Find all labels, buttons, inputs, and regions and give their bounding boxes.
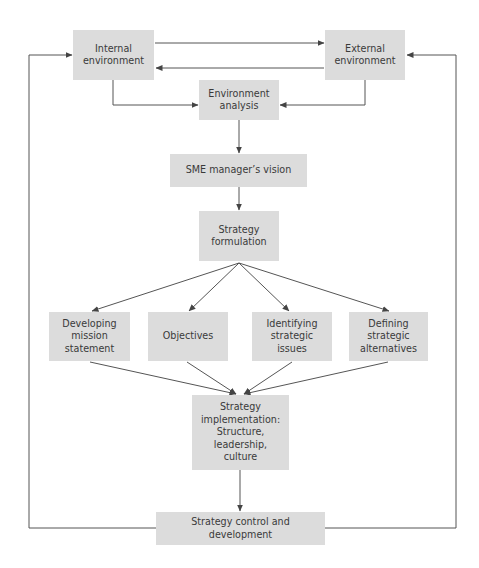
- node-strategy-control-and-development: Strategy control and development: [156, 512, 325, 545]
- feedback-control-to-internal: [29, 55, 156, 528]
- arrow-formulation-to-mission: [92, 263, 239, 311]
- node-external-environment: External environment: [325, 30, 405, 80]
- arrow-formulation-to-issues: [239, 263, 289, 311]
- arrow-alternatives-to-implementation: [244, 362, 388, 394]
- arrow-issues-to-implementation: [244, 362, 292, 394]
- arrow-formulation-to-alternatives: [239, 263, 389, 311]
- node-internal-environment: Internal environment: [73, 30, 154, 80]
- node-developing-mission-statement: Developing mission statement: [49, 312, 130, 361]
- node-environment-analysis: Environment analysis: [199, 80, 279, 120]
- node-identifying-strategic-issues: Identifying strategic issues: [252, 312, 332, 361]
- node-objectives: Objectives: [148, 312, 228, 361]
- node-sme-managers-vision: SME manager’s vision: [170, 154, 307, 187]
- arrow-mission-to-implementation: [90, 362, 236, 394]
- node-defining-strategic-alternatives: Defining strategic alternatives: [349, 312, 428, 361]
- node-strategy-formulation: Strategy formulation: [199, 211, 279, 261]
- arrow-objectives-to-implementation: [187, 362, 236, 394]
- arrow-external-to-analysis: [280, 80, 365, 105]
- node-strategy-implementation: Strategy implementation: Structure, lead…: [192, 395, 289, 470]
- strategy-process-diagram: Internal environment External environmen…: [0, 0, 479, 568]
- feedback-control-to-external: [325, 55, 456, 528]
- arrow-formulation-to-objectives: [189, 263, 239, 311]
- arrow-internal-to-analysis: [113, 80, 198, 105]
